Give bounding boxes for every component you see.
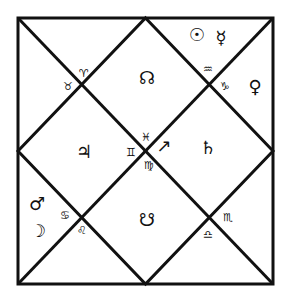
ketu-planet-icon: ☋: [139, 211, 155, 229]
virgo-sign-icon: ♍: [144, 160, 154, 171]
capricorn-sign-icon: ♑: [220, 81, 230, 92]
gemini-sign-icon: ♊: [126, 147, 136, 158]
rahu-planet-icon: ☊: [139, 69, 155, 87]
aries-sign-icon: ♈: [79, 68, 89, 79]
venus-planet-icon: ♀: [248, 78, 261, 96]
leo-sign-icon: ♌: [77, 225, 87, 236]
taurus-sign-icon: ♉: [63, 81, 73, 92]
libra-sign-icon: ♎: [203, 229, 213, 240]
sun-planet-icon: ☉: [189, 26, 205, 44]
pisces-sign-icon: ♓: [141, 132, 151, 143]
ascendant-arrow-planet-icon: ↗: [156, 137, 171, 155]
aquarius-sign-icon: ♒: [203, 64, 213, 75]
jupiter-planet-icon: ♃: [76, 143, 92, 161]
cancer-sign-icon: ♋: [60, 210, 70, 221]
mercury-planet-icon: ☿: [215, 29, 226, 47]
saturn-planet-icon: ♄: [200, 139, 216, 157]
north-indian-chart-grid: [0, 0, 291, 299]
mars-planet-icon: ♂: [29, 195, 45, 213]
moon-planet-icon: ☽: [30, 222, 46, 240]
scorpio-sign-icon: ♏: [223, 212, 233, 223]
